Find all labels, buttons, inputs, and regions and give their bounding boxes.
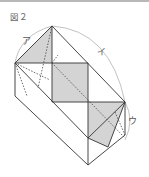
label-a: ア: [22, 37, 31, 46]
shaded-square-middle: [52, 63, 88, 102]
label-i: イ: [97, 48, 106, 57]
prism-diagram: [0, 0, 149, 177]
label-u: ウ: [128, 117, 137, 126]
